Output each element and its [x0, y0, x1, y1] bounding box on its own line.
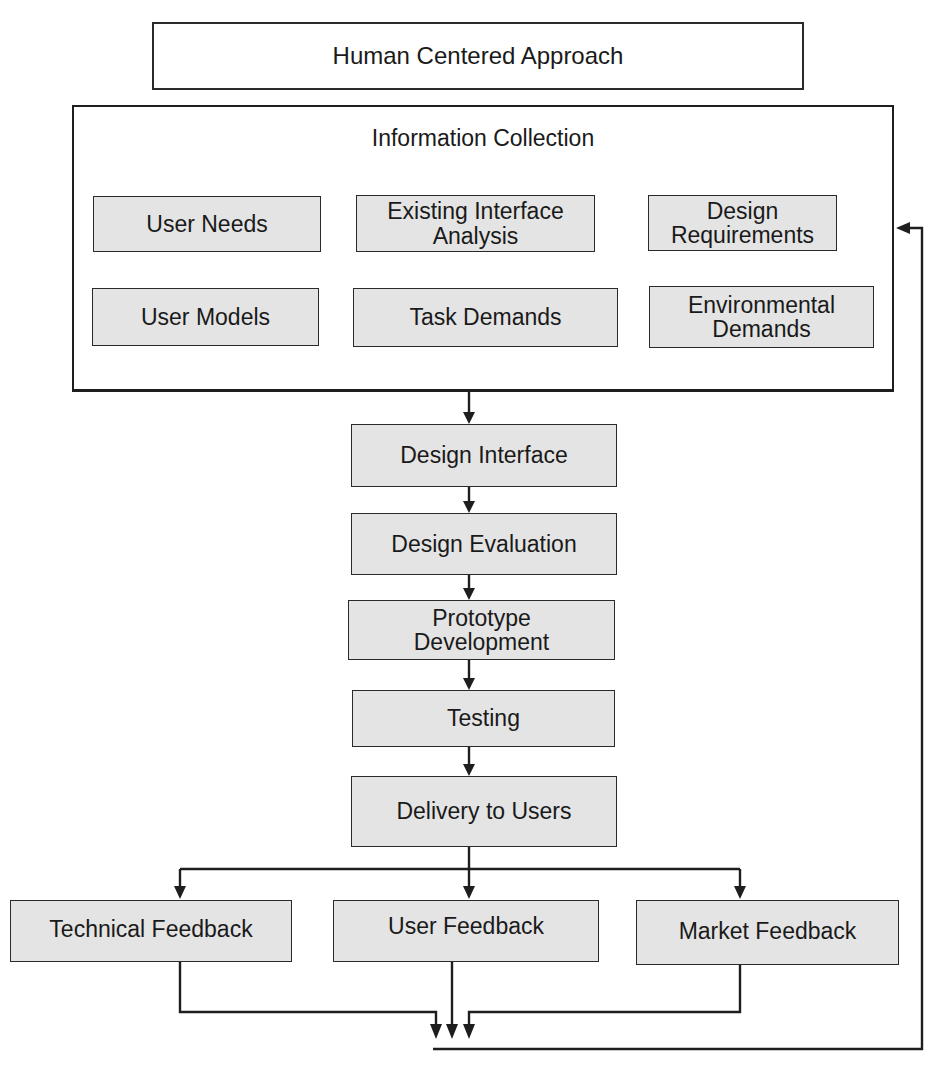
arrowhead-icon	[463, 1024, 475, 1039]
arrowhead-icon	[734, 886, 746, 899]
arrowhead-icon	[174, 886, 186, 899]
arrowhead-icon	[463, 678, 475, 690]
arrowhead-icon	[463, 501, 475, 513]
arrowhead-icon	[463, 764, 475, 776]
arrowhead-icon	[463, 886, 475, 899]
arrowhead-icon	[463, 588, 475, 600]
feedback-loop-line	[433, 228, 922, 1049]
connector-layer	[0, 0, 944, 1080]
arrowhead-icon	[446, 1024, 458, 1039]
arrowhead-icon	[896, 222, 910, 234]
arrowhead-icon	[463, 412, 475, 424]
merge-from-technical	[180, 962, 436, 1026]
merge-from-market	[469, 965, 740, 1026]
arrowhead-icon	[430, 1024, 442, 1039]
